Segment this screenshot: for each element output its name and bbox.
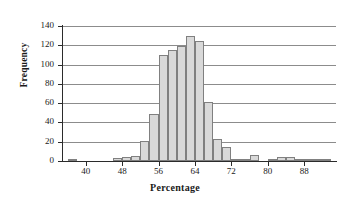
- histogram-bar: [68, 159, 77, 161]
- y-tick-label-40: 40: [20, 116, 54, 126]
- y-tick-label-20: 20: [20, 136, 54, 146]
- x-tick-label-72: 72: [216, 166, 246, 176]
- y-tick-label-0: 0: [20, 155, 54, 165]
- histogram-bar: [168, 50, 177, 161]
- x-tick-label-56: 56: [144, 166, 174, 176]
- x-tick-label-80: 80: [253, 166, 283, 176]
- histogram-bar: [240, 159, 249, 161]
- histogram-bar: [113, 158, 122, 161]
- histogram-bar: [322, 159, 331, 161]
- gridline-140: [63, 26, 336, 27]
- histogram-bar: [131, 156, 140, 161]
- x-tick-label-48: 48: [107, 166, 137, 176]
- x-tick-label-40: 40: [71, 166, 101, 176]
- histogram-bar: [268, 159, 277, 161]
- gridline-0: [63, 161, 336, 162]
- histogram-bar: [213, 139, 222, 161]
- histogram-bar: [122, 157, 131, 161]
- histogram-bar: [195, 41, 204, 161]
- y-tick-label-140: 140: [20, 20, 54, 30]
- y-tick-label-100: 100: [20, 59, 54, 69]
- histogram-bar: [159, 55, 168, 161]
- histogram-bar: [313, 159, 322, 161]
- x-tick-label-64: 64: [180, 166, 210, 176]
- histogram-bar: [277, 157, 286, 161]
- histogram-bar: [222, 147, 231, 161]
- histogram-bar: [149, 114, 158, 161]
- histogram-chart: Frequency 020406080100120140 40485664728…: [0, 0, 350, 205]
- histogram-bar: [250, 155, 259, 161]
- histogram-bar: [231, 159, 240, 161]
- y-tick-label-120: 120: [20, 39, 54, 49]
- histogram-bar: [286, 157, 295, 161]
- x-axis-title: Percentage: [0, 182, 350, 193]
- histogram-bar: [140, 141, 149, 161]
- histogram-bar: [304, 159, 313, 161]
- y-tick-label-60: 60: [20, 97, 54, 107]
- histogram-bar: [295, 159, 304, 161]
- y-tick-label-80: 80: [20, 78, 54, 88]
- histogram-bar: [186, 36, 195, 161]
- histogram-bar: [204, 102, 213, 161]
- plot-area: [63, 26, 336, 161]
- x-tick-label-88: 88: [289, 166, 319, 176]
- histogram-bar: [177, 46, 186, 161]
